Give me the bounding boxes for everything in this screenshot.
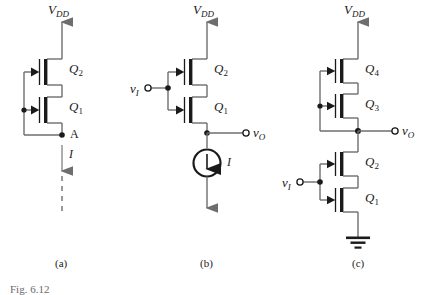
transistor-q3-c bbox=[320, 94, 358, 118]
transistor-label-q1-b: Q1 bbox=[214, 100, 228, 113]
transistor-q2-c bbox=[320, 152, 358, 176]
output-label-c: vO bbox=[402, 124, 414, 137]
node-label-a: A bbox=[70, 128, 79, 140]
junction-dot-a-gate bbox=[21, 107, 26, 112]
transistor-label-q2-a: Q2 bbox=[69, 62, 83, 75]
figure-caption: Fig. 6.12 bbox=[10, 284, 49, 295]
panel-label-b: (b) bbox=[200, 258, 213, 269]
transistor-label-q4-c: Q4 bbox=[365, 62, 379, 75]
input-label-b: vI bbox=[130, 82, 139, 95]
supply-label-c: VDD bbox=[344, 3, 365, 16]
junction-dot-c-input bbox=[317, 179, 323, 185]
panel-label-a: (a) bbox=[55, 258, 67, 269]
circuit-b bbox=[145, 22, 249, 208]
transistor-label-q1-a: Q1 bbox=[69, 100, 83, 113]
circuit-diagram-svg bbox=[0, 0, 444, 295]
panel-label-c: (c) bbox=[352, 258, 364, 269]
figure-container: VDD Q2 Q1 A I (a) VDD vI vO Q2 Q1 I (b) … bbox=[0, 0, 444, 295]
output-terminal-c[interactable] bbox=[392, 128, 398, 134]
output-label-b: vO bbox=[253, 126, 265, 139]
input-label-c: vI bbox=[282, 176, 291, 189]
transistor-q1-a bbox=[24, 97, 62, 123]
current-source-b bbox=[194, 150, 221, 177]
transistor-q4-c bbox=[320, 59, 358, 83]
transistor-label-q1-c: Q1 bbox=[365, 191, 379, 204]
input-terminal-c[interactable] bbox=[297, 179, 303, 185]
supply-label-a: VDD bbox=[48, 3, 69, 16]
junction-dot-b-input bbox=[165, 85, 171, 91]
input-terminal-b[interactable] bbox=[145, 85, 151, 91]
current-label-a: I bbox=[69, 148, 73, 160]
node-a-dot bbox=[59, 132, 65, 138]
transistor-q1-b bbox=[168, 97, 207, 123]
ground-symbol-c bbox=[346, 237, 370, 249]
transistor-q1-c bbox=[320, 188, 358, 212]
current-source-label-b: I bbox=[227, 156, 231, 168]
transistor-q2-a bbox=[24, 59, 62, 85]
transistor-label-q2-b: Q2 bbox=[214, 62, 228, 75]
output-terminal-b[interactable] bbox=[243, 130, 249, 136]
transistor-label-q2-c: Q2 bbox=[365, 155, 379, 168]
supply-label-b: VDD bbox=[193, 3, 214, 16]
circuit-c bbox=[297, 22, 398, 249]
transistor-label-q3-c: Q3 bbox=[365, 97, 379, 110]
circuit-a bbox=[21, 22, 64, 213]
transistor-q2-b bbox=[168, 59, 207, 85]
junction-dot-c-q3-gate bbox=[317, 103, 322, 108]
